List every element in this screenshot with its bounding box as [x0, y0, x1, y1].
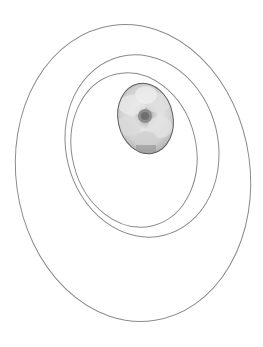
concentric-ovals-figure — [0, 0, 263, 347]
outer-ring — [0, 9, 263, 337]
figure-canvas — [0, 0, 263, 347]
flower-photo — [110, 78, 182, 160]
